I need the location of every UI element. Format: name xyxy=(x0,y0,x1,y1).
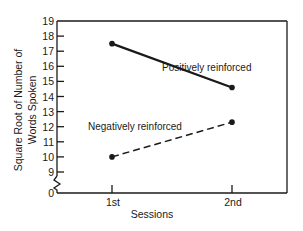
data-point xyxy=(229,119,235,125)
y-axis-ticks: 0910111213141516171819 xyxy=(42,15,64,199)
x-tick-label: 2nd xyxy=(224,196,242,208)
y-tick-label: 13 xyxy=(42,106,54,118)
y-axis-title-line2: Words Spoken xyxy=(26,76,38,145)
y-tick-label: 18 xyxy=(42,30,54,42)
y-tick-label: 9 xyxy=(48,166,54,178)
y-tick-label: 0 xyxy=(48,187,54,199)
y-tick-label: 10 xyxy=(42,151,54,163)
x-axis-title: Sessions xyxy=(131,208,174,220)
y-axis-title-line1: Square Root of Number of xyxy=(12,49,24,172)
y-tick-label: 15 xyxy=(42,75,54,87)
y-tick-label: 17 xyxy=(42,45,54,57)
data-point xyxy=(229,85,235,91)
series-label-negative: Negatively reinforced xyxy=(88,121,182,132)
line-chart: 0910111213141516171819 1st2nd Positively… xyxy=(0,0,303,231)
series-label-positive: Positively reinforced xyxy=(162,62,251,73)
x-axis-ticks: 1st2nd xyxy=(106,185,242,208)
y-tick-label: 14 xyxy=(42,91,54,103)
y-tick-label: 11 xyxy=(43,136,54,148)
y-tick-label: 19 xyxy=(42,15,54,27)
y-tick-label: 12 xyxy=(42,121,54,133)
data-point xyxy=(109,154,115,160)
data-point xyxy=(109,41,115,47)
y-tick-label: 16 xyxy=(42,60,54,72)
x-tick-label: 1st xyxy=(106,196,120,208)
data-series xyxy=(109,41,235,160)
plot-frame xyxy=(54,21,287,193)
